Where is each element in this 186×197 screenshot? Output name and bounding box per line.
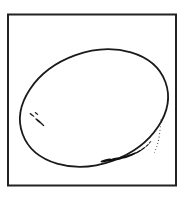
stipple-dot-6 (158, 140, 159, 141)
stipple-dot-3 (159, 130, 160, 131)
stipple-dot-7 (157, 143, 158, 144)
illustration-canvas: Egg (0, 0, 186, 197)
stipple-dot-8 (156, 146, 157, 147)
stipple-dot-5 (159, 136, 160, 137)
stipple-dot-2 (160, 126, 161, 127)
stipple-dot-1 (160, 123, 161, 124)
egg-illustration (0, 0, 186, 197)
stipple-dot-10 (154, 152, 155, 153)
stipple-dot-0 (160, 120, 161, 121)
stipple-dot-4 (159, 133, 160, 134)
stipple-dot-9 (155, 149, 156, 150)
